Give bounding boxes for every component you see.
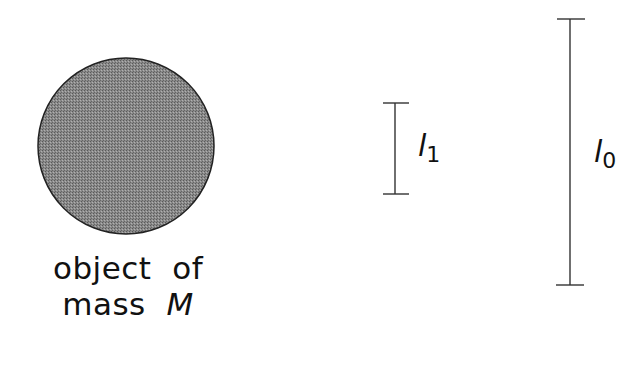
mass-object-caption: object of mass M bbox=[28, 250, 228, 322]
mass-object-circle bbox=[38, 58, 214, 234]
mass-symbol: M bbox=[166, 286, 193, 322]
length-subscript: 1 bbox=[426, 142, 440, 167]
length-label-l1: l1 bbox=[418, 128, 440, 167]
length-bar-l1 bbox=[383, 103, 409, 194]
caption-mass-text: mass bbox=[62, 286, 166, 322]
caption-line-2: mass M bbox=[28, 286, 228, 322]
length-bar-l0 bbox=[556, 19, 585, 285]
length-label-l0: l0 bbox=[594, 134, 616, 173]
caption-line-1: object of bbox=[28, 250, 228, 286]
length-subscript: 0 bbox=[602, 148, 616, 173]
